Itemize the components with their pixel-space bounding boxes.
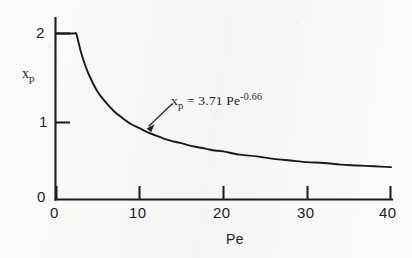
x-tick-label-0: 0 <box>50 204 59 221</box>
annotation-leader-line <box>149 104 172 126</box>
y-tick-label-1: 1 <box>39 113 48 130</box>
x-tick-label-20: 20 <box>213 204 231 221</box>
curve-equation-annotation: xp = 3.71 Pe-0.66 <box>171 91 262 111</box>
x-tick-label-30: 30 <box>297 204 315 221</box>
y-axis-title: xp <box>22 66 35 84</box>
annotation-exponent: -0.66 <box>240 91 262 102</box>
annotation-variable-base: x <box>171 93 178 108</box>
annotation-expression: = 3.71 Pe <box>183 93 240 108</box>
x-tick-label-40: 40 <box>379 204 397 221</box>
chart-figure: 2 1 0 0 10 20 30 40 xp Pe xp = 3.71 Pe-0… <box>0 0 412 258</box>
x-axis-title: Pe <box>226 231 244 247</box>
y-tick-label-2: 2 <box>36 24 45 41</box>
y-axis-title-base: x <box>22 66 29 81</box>
y-tick-label-0: 0 <box>37 188 46 205</box>
y-axis-title-subscript: p <box>29 72 35 84</box>
x-tick-label-10: 10 <box>129 204 147 221</box>
plot-area <box>0 0 412 258</box>
